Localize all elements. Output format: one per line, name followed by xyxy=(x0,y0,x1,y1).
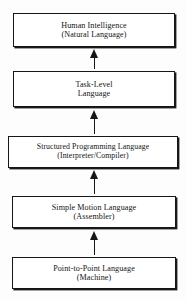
hierarchy-box-human-intelligence: Human Intelligence (Natural Language) xyxy=(13,13,175,47)
hierarchy-box-structured-programming-language: Structured Programming Language (Interpr… xyxy=(8,136,178,168)
hierarchy-box-simple-motion-language-line1: Simple Motion Language xyxy=(52,203,137,212)
up-arrow-icon-simple-motion-to-structured-programming xyxy=(90,170,99,194)
hierarchy-box-human-intelligence-line1: Human Intelligence xyxy=(61,21,127,30)
up-arrow-icon-point-to-point-to-simple-motion xyxy=(90,231,99,255)
hierarchy-box-task-level-language-line2: Language xyxy=(78,89,111,98)
language-hierarchy-diagram: Human Intelligence (Natural Language) Ta… xyxy=(0,0,187,299)
hierarchy-box-simple-motion-language: Simple Motion Language (Assembler) xyxy=(12,196,176,228)
up-arrow-icon-task-level-to-human-intelligence xyxy=(90,49,99,69)
hierarchy-box-task-level-language-line1: Task-Level xyxy=(75,80,112,89)
arrow-head xyxy=(90,110,98,119)
hierarchy-box-task-level-language: Task-Level Language xyxy=(13,71,175,107)
hierarchy-box-point-to-point-language: Point-to-Point Language (Machine) xyxy=(12,257,176,289)
arrow-head xyxy=(90,170,98,179)
hierarchy-box-simple-motion-language-line2: (Assembler) xyxy=(74,212,115,221)
hierarchy-box-structured-programming-language-line2: (Interpreter/Compiler) xyxy=(57,152,128,161)
arrow-head xyxy=(90,231,98,240)
hierarchy-box-point-to-point-language-line1: Point-to-Point Language xyxy=(53,264,135,273)
hierarchy-box-human-intelligence-line2: (Natural Language) xyxy=(61,30,126,39)
arrow-head xyxy=(90,49,98,58)
hierarchy-box-point-to-point-language-line2: (Machine) xyxy=(77,273,111,282)
up-arrow-icon-structured-programming-to-task-level xyxy=(90,110,99,134)
